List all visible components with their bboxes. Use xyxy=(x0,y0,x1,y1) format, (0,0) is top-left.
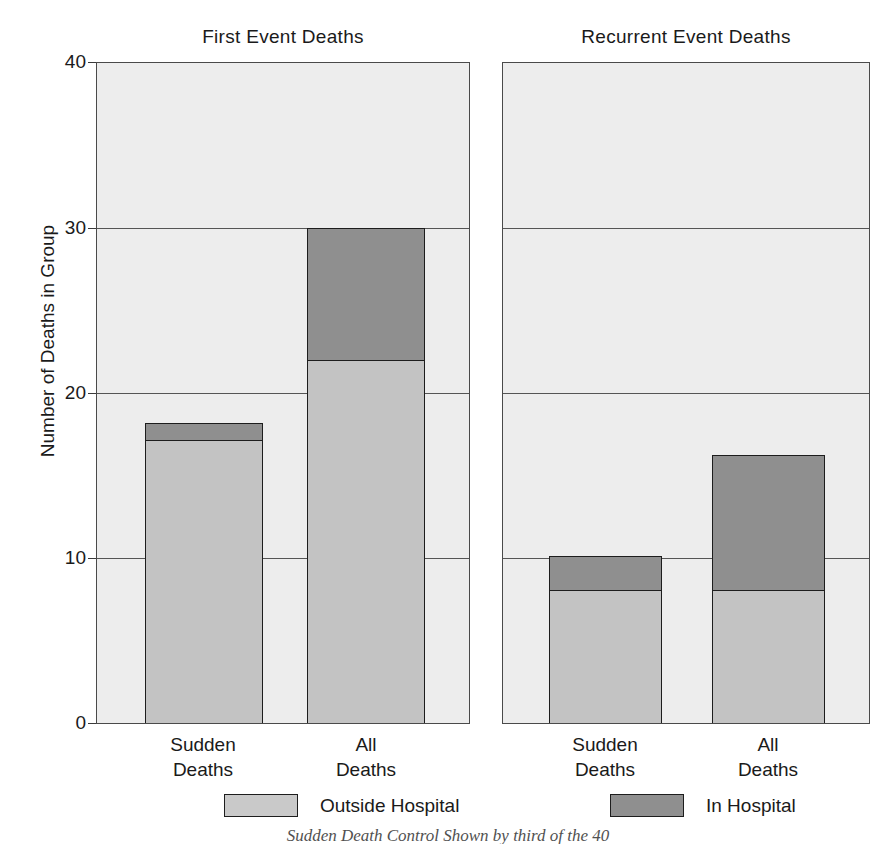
bar-recurrent-event-sudden-deaths[interactable] xyxy=(549,556,662,724)
legend-swatch-outside-hospital xyxy=(224,794,298,817)
bar-segment-outside-hospital[interactable] xyxy=(712,590,825,724)
x-category-recurrent-event-all: All Deaths xyxy=(661,732,875,782)
bar-segment-in-hospital[interactable] xyxy=(307,228,425,362)
legend-label-outside-hospital: Outside Hospital xyxy=(320,795,459,817)
bar-segment-in-hospital[interactable] xyxy=(712,455,825,592)
legend-label-in-hospital: In Hospital xyxy=(706,795,796,817)
x-category-line-2: Deaths xyxy=(661,757,875,782)
gridline-20 xyxy=(503,393,869,394)
y-axis-ticks: 40 30 20 10 0 xyxy=(28,0,86,844)
x-category-line-1: All xyxy=(661,732,875,757)
legend-entry-outside-hospital[interactable]: Outside Hospital xyxy=(224,794,459,817)
legend-swatch-in-hospital xyxy=(610,794,684,817)
plot-panel-first-event xyxy=(96,62,470,724)
page-caption-fragment: Sudden Death Control Shown by third of t… xyxy=(0,826,896,844)
panel-title-recurrent-event: Recurrent Event Deaths xyxy=(502,26,870,48)
bar-segment-outside-hospital[interactable] xyxy=(307,360,425,724)
y-tick-10: 10 xyxy=(65,547,86,569)
bar-first-event-sudden-deaths[interactable] xyxy=(145,423,263,724)
bar-segment-outside-hospital[interactable] xyxy=(549,590,662,724)
legend-entry-in-hospital[interactable]: In Hospital xyxy=(610,794,796,817)
bar-segment-outside-hospital[interactable] xyxy=(145,440,263,724)
x-category-first-event-all: All Deaths xyxy=(259,732,473,782)
bar-recurrent-event-all-deaths[interactable] xyxy=(712,455,825,724)
gridline-30 xyxy=(503,228,869,229)
x-category-line-1: All xyxy=(259,732,473,757)
bar-first-event-all-deaths[interactable] xyxy=(307,228,425,724)
y-tick-20: 20 xyxy=(65,382,86,404)
y-tick-40: 40 xyxy=(65,51,86,73)
plot-panel-recurrent-event xyxy=(502,62,870,724)
figure-canvas: Number of Deaths in Group 40 30 20 10 0 … xyxy=(0,0,896,844)
panel-title-first-event: First Event Deaths xyxy=(96,26,470,48)
y-tick-30: 30 xyxy=(65,217,86,239)
bar-segment-in-hospital[interactable] xyxy=(549,556,662,592)
x-category-line-2: Deaths xyxy=(259,757,473,782)
y-tick-0: 0 xyxy=(75,712,86,734)
